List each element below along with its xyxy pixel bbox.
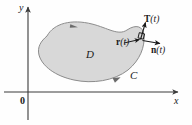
y-axis-label: y <box>19 3 23 13</box>
tangent-vector-label: T(t) <box>144 15 159 25</box>
region-label-d: D <box>86 49 94 60</box>
normal-vector-n <box>143 41 161 44</box>
figure-graphics <box>0 0 192 125</box>
curve-label-c: C <box>130 70 137 81</box>
tangent-argument: (t) <box>150 14 159 24</box>
x-axis-label: x <box>174 96 178 106</box>
position-vector-label: r(t) <box>116 38 129 48</box>
normal-argument: (t) <box>156 45 165 55</box>
position-argument: (t) <box>120 37 129 47</box>
figure-canvas: y x 0 D C T(t) r(t) n(t) <box>0 0 192 125</box>
origin-label: 0 <box>20 96 25 106</box>
normal-vector-label: n(t) <box>151 46 165 56</box>
